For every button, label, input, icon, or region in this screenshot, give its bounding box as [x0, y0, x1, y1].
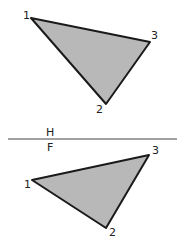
front-vertex-3-label: 3	[152, 144, 159, 157]
orthographic-views-diagram: 1 2 3 H F 1 2 3	[0, 0, 177, 244]
top-vertex-1-label: 1	[23, 9, 30, 22]
top-vertex-2-label: 2	[96, 103, 103, 116]
front-vertex-2-label: 2	[109, 226, 116, 239]
top-view-triangle	[31, 18, 150, 104]
fold-line-label-f: F	[47, 141, 53, 154]
fold-line-label-h: H	[46, 126, 54, 139]
front-vertex-1-label: 1	[24, 178, 31, 191]
top-vertex-3-label: 3	[151, 29, 158, 42]
front-view-triangle	[32, 155, 149, 228]
